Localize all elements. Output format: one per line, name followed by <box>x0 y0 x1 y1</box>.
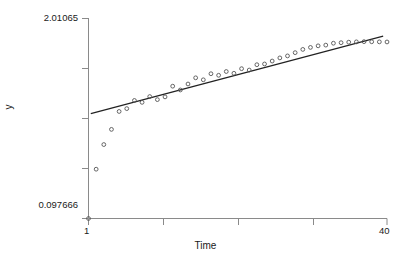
data-point <box>370 40 374 44</box>
y-axis-ticks <box>82 19 89 219</box>
data-point <box>324 43 328 47</box>
data-point <box>171 84 175 88</box>
x-axis-max-tick-label: 40 <box>379 226 390 236</box>
data-point <box>347 40 351 44</box>
axis-group <box>82 18 387 225</box>
data-point <box>194 76 198 80</box>
data-point <box>309 46 313 50</box>
data-point <box>301 48 305 52</box>
y-axis-max-tick-label: 2.01065 <box>44 13 78 23</box>
data-point <box>186 82 190 86</box>
data-point <box>286 54 290 58</box>
data-point <box>293 51 297 55</box>
x-axis-ticks <box>89 219 388 226</box>
data-point <box>201 78 205 82</box>
data-point <box>240 67 244 71</box>
data-point <box>377 40 381 44</box>
data-point <box>117 110 121 114</box>
x-axis-title: Time <box>0 241 411 251</box>
scatter-plot-figure: 2.01065 0.097666 1 40 y Time <box>0 0 411 263</box>
data-point <box>263 62 267 66</box>
data-point <box>332 41 336 45</box>
data-point <box>163 95 167 99</box>
data-point <box>217 73 221 77</box>
y-axis-min-tick-label: 0.097666 <box>38 200 78 210</box>
data-point <box>224 70 228 74</box>
y-axis-title: y <box>4 105 14 110</box>
data-point <box>339 41 343 45</box>
plot-canvas <box>0 0 411 263</box>
data-point <box>232 71 236 75</box>
data-point <box>316 44 320 48</box>
data-point <box>385 40 389 44</box>
data-point <box>102 143 106 147</box>
data-point <box>278 56 282 60</box>
data-point <box>255 63 259 67</box>
data-point <box>110 127 114 131</box>
data-point <box>125 107 129 111</box>
data-point <box>270 59 274 63</box>
x-axis-min-tick-label: 1 <box>84 226 89 236</box>
data-point <box>155 98 159 102</box>
data-point <box>209 72 213 76</box>
data-point <box>140 100 144 104</box>
data-point-group <box>87 40 389 221</box>
data-point <box>94 167 98 171</box>
